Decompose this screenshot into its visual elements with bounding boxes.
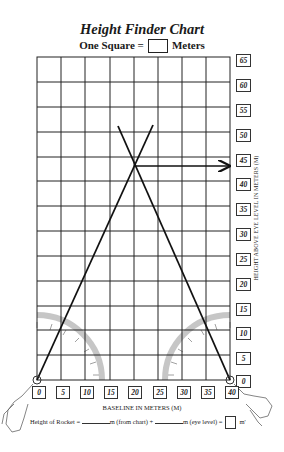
y-label-45: 45	[236, 154, 251, 167]
x-label-0: 0	[32, 386, 46, 399]
y-label-5: 5	[236, 352, 251, 365]
y-axis-title: HEIGHT ABOVE EYE LEVEL IN METERS (M)	[253, 143, 263, 293]
y-label-30: 30	[236, 228, 251, 241]
x-label-35: 35	[201, 386, 215, 399]
y-label-25: 25	[236, 253, 251, 266]
x-label-25: 25	[153, 386, 167, 399]
grid-lines	[37, 57, 230, 380]
eye-level-blank[interactable]	[155, 416, 183, 424]
height-formula: Height of Rocket = m (from chart) + m (e…	[30, 416, 246, 429]
y-label-65: 65	[236, 54, 251, 67]
formula-part1-unit: m (from chart) +	[110, 418, 154, 425]
formula-result-unit: m'	[239, 418, 245, 425]
x-label-10: 10	[80, 386, 94, 399]
x-axis-title: BASELINE IN METERS (M)	[0, 404, 284, 411]
y-label-60: 60	[236, 79, 251, 92]
formula-lead: Height of Rocket =	[30, 418, 80, 425]
y-label-40: 40	[236, 178, 251, 191]
y-label-35: 35	[236, 203, 251, 216]
y-label-55: 55	[236, 104, 251, 117]
protractor-left	[37, 315, 102, 380]
chart-height-blank[interactable]	[82, 416, 110, 424]
y-label-50: 50	[236, 129, 251, 142]
y-label-10: 10	[236, 327, 251, 340]
x-label-40: 40	[225, 386, 239, 399]
x-label-20: 20	[128, 386, 142, 399]
formula-part2-unit: m (eye level) =	[183, 418, 223, 425]
result-box[interactable]	[225, 416, 236, 429]
y-label-20: 20	[236, 278, 251, 291]
protractor-right	[165, 315, 230, 380]
x-label-5: 5	[56, 386, 70, 399]
x-label-30: 30	[177, 386, 191, 399]
sight-line-left	[37, 125, 153, 380]
y-label-15: 15	[236, 303, 251, 316]
x-label-15: 15	[104, 386, 118, 399]
